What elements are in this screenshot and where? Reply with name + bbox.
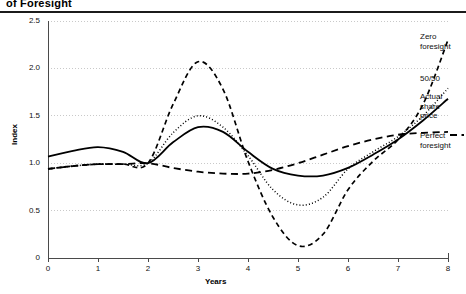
legend-label-perfect-foresight: Perfect foresight bbox=[420, 131, 451, 150]
x-tick-label: 5 bbox=[288, 264, 308, 273]
y-tick-label: 1.0 bbox=[14, 158, 40, 167]
y-tick-label: 2.5 bbox=[14, 16, 40, 25]
axis-ticks bbox=[48, 258, 448, 262]
x-axis-label: Years bbox=[205, 277, 226, 286]
legend-label-fifty-fifty: 50/50 bbox=[420, 74, 440, 84]
x-tick-label: 2 bbox=[138, 264, 158, 273]
data-series-group bbox=[48, 40, 448, 247]
x-tick-label: 4 bbox=[238, 264, 258, 273]
x-tick-label: 6 bbox=[338, 264, 358, 273]
gridlines bbox=[48, 21, 448, 211]
series-line-perfect-foresight bbox=[48, 132, 448, 174]
y-tick-label: 0 bbox=[14, 253, 40, 262]
series-line-zero-foresight bbox=[48, 40, 448, 247]
plot-canvas bbox=[0, 0, 466, 294]
x-tick-label: 0 bbox=[38, 264, 58, 273]
y-tick-label: 0.5 bbox=[14, 206, 40, 215]
axis-lines bbox=[48, 21, 448, 258]
legend-label-actual-share-price: Actual share price bbox=[420, 92, 442, 121]
y-tick-label: 2.0 bbox=[14, 63, 40, 72]
x-tick-label: 7 bbox=[388, 264, 408, 273]
x-tick-label: 8 bbox=[438, 264, 458, 273]
legend-label-zero-foresight: Zero foresight bbox=[420, 32, 451, 51]
x-tick-label: 3 bbox=[188, 264, 208, 273]
y-tick-label: 1.5 bbox=[14, 111, 40, 120]
x-tick-label: 1 bbox=[88, 264, 108, 273]
chart-figure: of Foresight Index Years 00.51.01.52.02.… bbox=[0, 0, 466, 294]
